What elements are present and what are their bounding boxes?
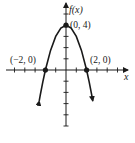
vertex-label: (0, 4) (70, 20, 91, 31)
right-root-label: (2, 0) (90, 55, 111, 66)
left-root-label: (−2, 0) (10, 55, 36, 66)
y-axis-label: f(x) (69, 4, 84, 16)
key-point-marker (63, 23, 68, 28)
parabola-chart: f(x) x (0, 4) (−2, 0) (2, 0) (0, 0, 135, 143)
key-point-marker (43, 67, 48, 72)
key-point-marker (84, 67, 89, 72)
x-axis-label: x (123, 71, 129, 82)
